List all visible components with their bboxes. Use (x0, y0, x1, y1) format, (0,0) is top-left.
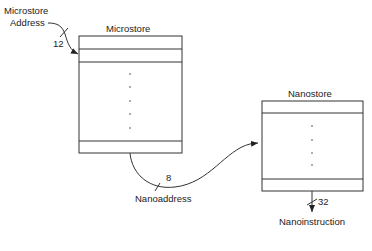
nanoinstruction-width: 32 (318, 196, 329, 207)
nanoinstruction-label: Nanoinstruction (279, 216, 345, 227)
microstore-address-label-line1: Microstore (4, 5, 48, 16)
microstore-box (79, 36, 182, 153)
microstore-address-width: 12 (53, 38, 64, 49)
nanoaddress-label: Nanoaddress (135, 193, 192, 204)
microstore-address-label: Microstore Address (4, 5, 48, 28)
microstore-title: Microstore (106, 23, 150, 34)
microprogram-diagram: Microstore Address 12 Microstore 8 Nanoa… (0, 0, 372, 251)
nanostore-title: Nanostore (288, 88, 332, 99)
nanoaddress-width: 8 (166, 172, 171, 183)
nanostore-box (262, 101, 363, 191)
bus-width-slash-icon (60, 28, 68, 37)
microstore-address-label-line2: Address (10, 17, 45, 28)
